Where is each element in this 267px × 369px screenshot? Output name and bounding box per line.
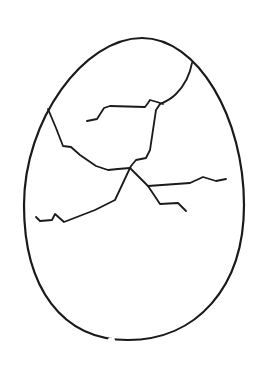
- egg-drawing-canvas: Cracked egg line drawing: [0, 0, 267, 369]
- cracked-egg-illustration: [0, 0, 267, 369]
- background: [0, 0, 267, 369]
